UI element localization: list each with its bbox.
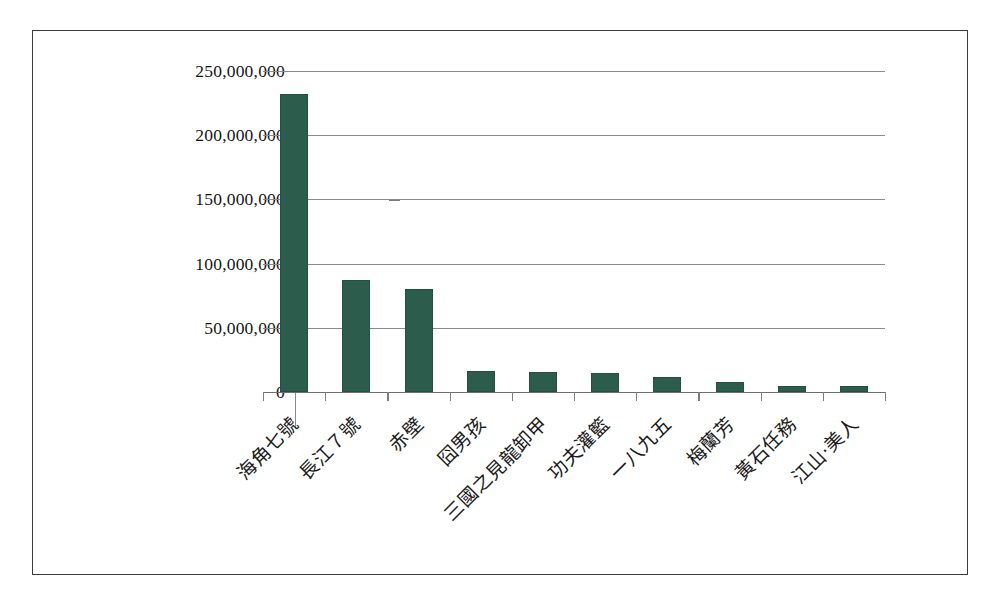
- category-label: 江山‧美人: [632, 410, 863, 607]
- bar: [840, 386, 868, 392]
- bar: [280, 94, 308, 392]
- category-label: 功夫灌籃: [383, 410, 614, 607]
- bar: [778, 386, 806, 392]
- chart-frame: 050,000,000100,000,000150,000,000200,000…: [32, 30, 968, 575]
- category-tick: [450, 392, 451, 401]
- category-tick: [698, 392, 699, 401]
- gridline-200000000: [263, 135, 885, 136]
- gridline-250000000: [263, 71, 885, 72]
- category-label: 三國之見龍卸甲: [321, 410, 552, 607]
- bar: [405, 289, 433, 392]
- bar: [342, 280, 370, 392]
- category-tick: [885, 392, 886, 401]
- category-tick: [512, 392, 513, 401]
- gridline-150000000: [263, 199, 885, 200]
- category-tick: [761, 392, 762, 401]
- category-label: 黃石任務: [570, 410, 801, 607]
- bar: [716, 382, 744, 392]
- category-label: 梅蘭芳: [508, 410, 739, 607]
- bar: [591, 373, 619, 392]
- bar: [653, 377, 681, 392]
- category-tick: [574, 392, 575, 401]
- gridline-100000000: [263, 264, 885, 265]
- chart-screenshot: 050,000,000100,000,000150,000,000200,000…: [0, 0, 1000, 607]
- category-tick: [823, 392, 824, 401]
- category-label: 囧男孩: [259, 410, 490, 607]
- bar: [467, 371, 495, 392]
- category-label: 一八九五: [446, 410, 677, 607]
- category-tick: [387, 392, 388, 401]
- category-tick: [263, 392, 264, 401]
- category-tick: [636, 392, 637, 401]
- bar: [529, 372, 557, 392]
- category-tick: [325, 392, 326, 401]
- plot-area: [263, 71, 885, 392]
